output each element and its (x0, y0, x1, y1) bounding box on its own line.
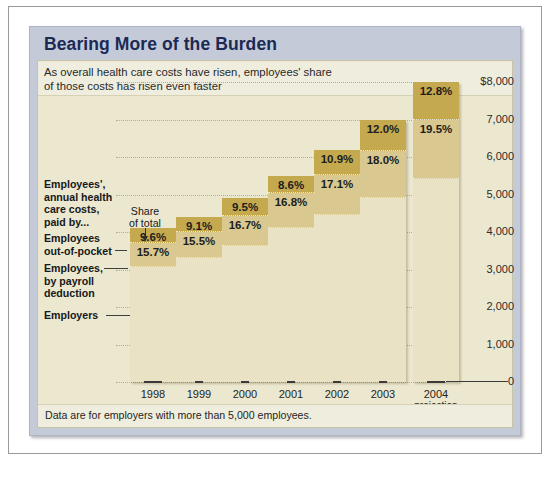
bar-segment: 12.0% (360, 120, 406, 152)
bar-1999: 9.1%15.5% (176, 217, 222, 382)
bar-segment (413, 179, 459, 382)
bar-segment-label: 15.5% (176, 235, 222, 247)
bar-segment-label: 12.0% (360, 123, 406, 135)
bar-segment (222, 246, 268, 382)
y-axis-tick-label: 2,000 (452, 300, 514, 312)
leader-out-of-pocket (115, 250, 127, 251)
x-axis-label-2003: 2003 (353, 388, 413, 400)
bar-segment-label: 9.6% (130, 231, 176, 243)
x-axis-label-year: 2000 (233, 388, 257, 400)
x-axis-label-year: 2003 (371, 388, 395, 400)
x-axis-label-year: 1998 (141, 388, 165, 400)
y-axis-baseline (446, 381, 508, 382)
bar-2000: 9.5%16.7% (222, 198, 268, 382)
share-of-total-label: Share of total (118, 205, 172, 230)
bar-segment-label: 9.1% (176, 220, 222, 232)
bar-segment: 16.7% (222, 216, 268, 247)
group-label-line1: Employees', (44, 178, 105, 190)
bar-segment: 8.6% (268, 176, 314, 194)
bar-segment (268, 228, 314, 382)
y-axis-tick-label: 7,000 (452, 113, 514, 125)
bar-segment (360, 198, 406, 382)
bar-2002: 10.9%17.1% (314, 150, 360, 383)
bar-1998: 9.6%15.7% (130, 228, 176, 382)
share-arrow-head (142, 236, 148, 242)
bar-segment: 16.8% (268, 193, 314, 228)
legend-out-of-pocket-line2: out-of-pocket (44, 245, 112, 257)
x-axis-label-year: 2001 (279, 388, 303, 400)
gridline (116, 382, 446, 383)
x-axis-tick (379, 381, 387, 383)
bar-segment-label: 10.9% (314, 153, 360, 165)
bar-segment-label: 19.5% (413, 123, 459, 135)
share-of-total-line1: Share (131, 205, 159, 217)
legend-out-of-pocket: Employees out-of-pocket (44, 232, 128, 257)
x-axis-tick (287, 381, 295, 383)
legend-out-of-pocket-line1: Employees (44, 232, 100, 244)
x-axis-tick (144, 381, 162, 383)
group-label-line3: care costs, (44, 203, 99, 215)
y-axis-tick-label: 3,000 (452, 263, 514, 275)
legend-payroll-line3: deduction (44, 287, 95, 299)
group-label-line2: annual health (44, 191, 112, 203)
x-axis-label-year: 2004 (424, 388, 448, 400)
x-axis-label-year: 2002 (325, 388, 349, 400)
bar-segment: 15.5% (176, 232, 222, 258)
bar-segment: 9.5% (222, 198, 268, 215)
y-axis-tick-label: 5,000 (452, 188, 514, 200)
bar-segment: 18.0% (360, 151, 406, 198)
bar-2003: 12.0%18.0% (360, 120, 406, 383)
y-axis-tick-label: 1,000 (452, 338, 514, 350)
x-axis-tick (195, 381, 203, 383)
bar-segment-label: 16.8% (268, 196, 314, 208)
bar-segment-label: 15.7% (130, 246, 176, 258)
x-axis-tick (241, 381, 249, 383)
bar-segment-label: 18.0% (360, 154, 406, 166)
group-label-line4: paid by... (44, 216, 89, 228)
group-label: Employees', annual health care costs, pa… (44, 178, 126, 228)
bar-segment (314, 215, 360, 382)
bar-segment-label: 17.1% (314, 178, 360, 190)
y-axis-tick-label: $8,000 (452, 75, 514, 87)
bar-segment: 17.1% (314, 175, 360, 215)
bar-segment-label: 16.7% (222, 219, 268, 231)
x-axis-tick (333, 381, 341, 383)
infographic-root: Bearing More of the Burden As overall he… (0, 0, 552, 478)
legend-payroll-line2: by payroll (44, 275, 94, 287)
bar-segment: 15.7% (130, 243, 176, 267)
legend-payroll-line1: Employees, (44, 262, 103, 274)
bar-segment-label: 8.6% (268, 179, 314, 191)
bar-segment (176, 258, 222, 382)
y-axis-tick-label: 6,000 (452, 150, 514, 162)
y-axis-tick-label: 4,000 (452, 225, 514, 237)
bar-segment: 9.6% (130, 228, 176, 243)
bar-segment: 9.1% (176, 217, 222, 232)
leader-payroll (104, 268, 128, 269)
x-axis-tick (427, 381, 445, 383)
bar-2001: 8.6%16.8% (268, 176, 314, 382)
footnote-text: Data are for employers with more than 5,… (45, 409, 312, 421)
x-axis-label-year: 1999 (187, 388, 211, 400)
page-title: Bearing More of the Burden (44, 34, 277, 55)
bar-segment: 10.9% (314, 150, 360, 175)
plot-area: 9.6%15.7%9.1%15.5%9.5%16.7%8.6%16.8%10.9… (116, 82, 446, 382)
leader-employers (106, 315, 130, 316)
gridline (116, 82, 446, 83)
bar-segment-label: 9.5% (222, 201, 268, 213)
bar-segment (130, 267, 176, 382)
